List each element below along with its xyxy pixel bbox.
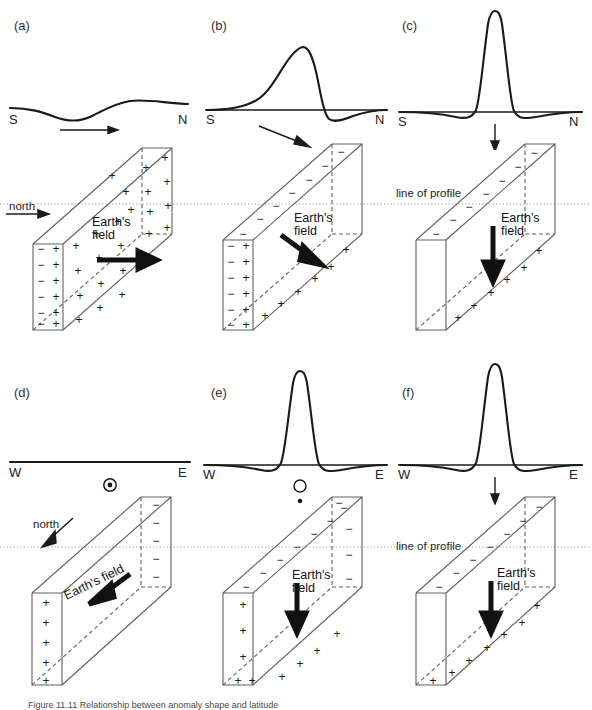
svg-text:+: + [327, 260, 334, 274]
svg-text:−: − [272, 199, 279, 213]
svg-text:+: + [520, 261, 527, 275]
svg-text:+: + [52, 274, 59, 288]
block-diagram-e: +++ ++ −−− −−−− −−−− ++++ [197, 355, 394, 709]
svg-text:+: + [242, 271, 249, 285]
svg-text:+: + [119, 264, 126, 278]
svg-text:+: + [75, 313, 82, 327]
svg-text:+: + [242, 318, 249, 332]
earths-field-label-f: Earth's field [497, 567, 536, 593]
svg-text:+: + [483, 641, 490, 655]
svg-text:+: + [144, 185, 151, 199]
earths-field-line2: field [294, 224, 317, 238]
svg-text:+: + [465, 654, 472, 668]
svg-text:−: − [227, 303, 234, 317]
svg-text:+: + [503, 273, 510, 287]
svg-text:−: − [152, 498, 159, 512]
svg-text:+: + [52, 242, 59, 256]
block-diagram-b: −+ −+ −+ −+ −+ −+ −−− −−−− +++ +++ [197, 0, 394, 354]
svg-text:−: − [449, 213, 456, 227]
svg-text:+: + [242, 287, 249, 301]
svg-text:−: − [227, 318, 234, 332]
svg-text:−: − [514, 160, 521, 174]
svg-text:−: − [152, 534, 159, 548]
svg-text:+: + [42, 656, 49, 670]
svg-text:+: + [74, 264, 81, 278]
earths-field-arrow-b [281, 235, 322, 265]
svg-text:+: + [42, 636, 49, 650]
svg-text:−: − [530, 146, 537, 160]
svg-text:+: + [239, 624, 246, 638]
svg-text:−: − [498, 174, 505, 188]
svg-text:+: + [277, 297, 284, 311]
svg-text:−: − [293, 540, 300, 554]
svg-text:+: + [42, 596, 49, 610]
svg-text:+: + [52, 317, 59, 331]
earths-field-line2: field [92, 228, 115, 242]
svg-text:+: + [161, 151, 168, 165]
svg-text:−: − [310, 527, 317, 541]
svg-text:−: − [37, 290, 44, 304]
svg-text:+: + [518, 616, 525, 630]
svg-text:+: + [76, 289, 83, 303]
svg-text:+: + [296, 657, 303, 671]
svg-text:−: − [242, 580, 249, 594]
earths-field-line1: Earth's [292, 568, 331, 582]
svg-text:+: + [239, 598, 246, 612]
svg-text:−: − [345, 522, 352, 536]
svg-text:+: + [470, 299, 477, 313]
svg-text:+: + [122, 185, 129, 199]
block-diagram-c: −−− −−−− +++ +++ [394, 0, 591, 354]
svg-text:+: + [294, 285, 301, 299]
svg-text:+: + [163, 221, 170, 235]
svg-text:+: + [234, 674, 241, 688]
svg-text:+: + [145, 227, 152, 241]
svg-text:+: + [52, 258, 59, 272]
svg-text:−: − [288, 186, 295, 200]
svg-text:+: + [96, 301, 103, 315]
svg-text:+: + [118, 288, 125, 302]
svg-text:+: + [278, 670, 285, 684]
svg-text:−: − [486, 540, 493, 554]
svg-text:+: + [448, 666, 455, 680]
earths-field-line1: Earth's [497, 566, 536, 580]
svg-text:−: − [535, 500, 542, 514]
earths-field-line1: Earth's [501, 211, 540, 225]
svg-text:+: + [261, 309, 268, 323]
panel-b: (b) S N −+ −+ −+ −+ −+ −+ −−− [197, 0, 394, 354]
svg-text:+: + [97, 277, 104, 291]
figure-caption: Figure 11.11 Relationship between anomal… [28, 700, 278, 710]
svg-text:−: − [435, 580, 442, 594]
earths-field-arrow-a [97, 251, 157, 269]
svg-text:+: + [454, 311, 461, 325]
block-diagram-a: −+ −+ −+ −+ −+ −+ ++++ ++++ ++++ ++ ++++… [0, 0, 197, 354]
svg-text:−: − [37, 274, 44, 288]
svg-text:−: − [37, 258, 44, 272]
panel-a: (a) S N north −+ −+ −+ −+ [0, 0, 197, 354]
svg-text:−: − [432, 227, 439, 241]
svg-text:+: + [535, 244, 542, 258]
svg-text:−: − [239, 227, 246, 241]
panel-e: (e) W E +++ ++ −−− −−−− −−−− ++++ [197, 355, 394, 709]
svg-text:−: − [37, 242, 44, 256]
svg-text:+: + [164, 199, 171, 213]
svg-text:+: + [108, 169, 115, 183]
earths-field-label-e: Earth's field [292, 569, 331, 595]
svg-text:−: − [152, 516, 159, 530]
svg-text:+: + [42, 616, 49, 630]
svg-text:−: − [345, 548, 352, 562]
svg-text:−: − [256, 212, 263, 226]
svg-text:−: − [227, 255, 234, 269]
svg-text:+: + [239, 650, 246, 664]
svg-text:−: − [337, 145, 344, 159]
earths-field-label-a: Earth's field [92, 216, 131, 242]
svg-text:+: + [248, 674, 255, 688]
svg-text:−: − [452, 566, 459, 580]
svg-text:+: + [72, 239, 79, 253]
north-arrow-d [42, 518, 73, 547]
svg-text:+: + [242, 303, 249, 317]
svg-text:−: − [326, 514, 333, 528]
svg-text:+: + [487, 286, 494, 300]
svg-text:+: + [533, 599, 540, 613]
panel-f: (f) W E line of profile −−− −−−− +++ +++… [394, 355, 591, 709]
svg-text:+: + [242, 239, 249, 253]
